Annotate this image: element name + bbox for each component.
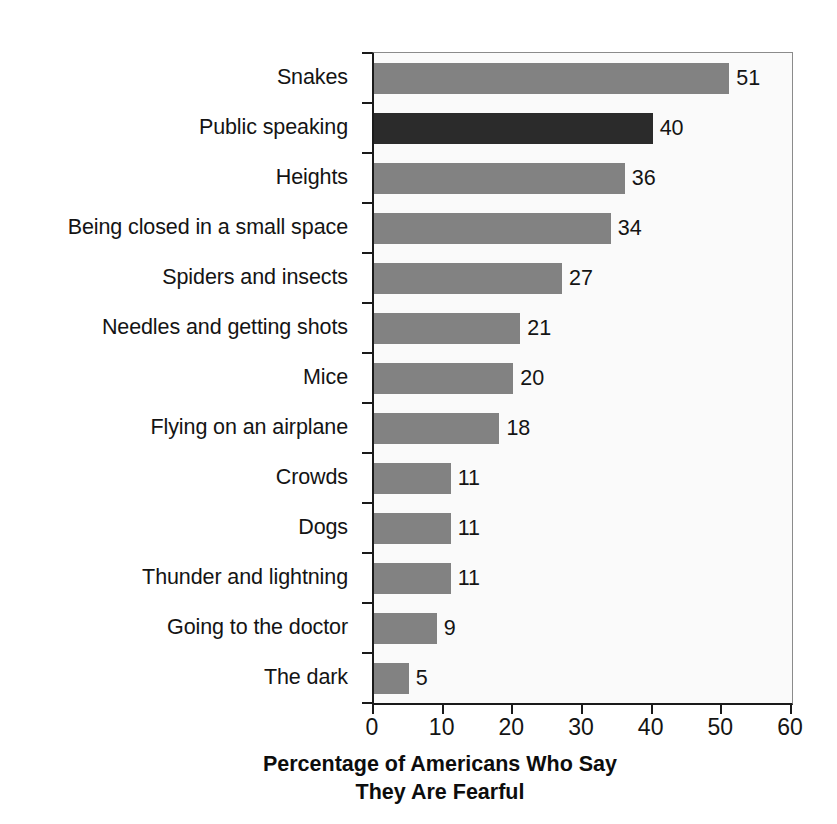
bar-value-label: 40	[660, 113, 684, 144]
bar-value-label: 34	[618, 213, 642, 244]
bar-value-label: 27	[569, 263, 593, 294]
value-axis-title-line-2: They Are Fearful	[160, 778, 720, 806]
bar[interactable]	[374, 663, 409, 694]
bar-row[interactable]: 27	[374, 253, 792, 303]
value-tick	[442, 704, 444, 714]
bar[interactable]	[374, 363, 513, 394]
category-label: Needles and getting shots	[0, 302, 348, 352]
bar-value-label: 11	[458, 463, 480, 494]
bar[interactable]	[374, 313, 520, 344]
plot-area: 514036342721201811111195	[372, 52, 793, 705]
category-label: Crowds	[0, 452, 348, 502]
category-label: Heights	[0, 152, 348, 202]
bar-row[interactable]: 51	[374, 53, 792, 103]
value-tick-label: 60	[760, 714, 820, 741]
bar[interactable]	[374, 513, 451, 544]
value-tick	[511, 704, 513, 714]
bar-row[interactable]: 21	[374, 303, 792, 353]
bar[interactable]	[374, 213, 611, 244]
category-label: Flying on an airplane	[0, 402, 348, 452]
bar-value-label: 36	[632, 163, 656, 194]
bar[interactable]	[374, 63, 729, 94]
bar-row[interactable]: 18	[374, 403, 792, 453]
bar-row[interactable]: 34	[374, 203, 792, 253]
bar-value-label: 18	[506, 413, 530, 444]
bar-chart: SnakesPublic speakingHeightsBeing closed…	[0, 0, 837, 824]
bar-row[interactable]: 40	[374, 103, 792, 153]
category-label: Going to the doctor	[0, 602, 348, 652]
category-label: Snakes	[0, 52, 348, 102]
bar[interactable]	[374, 263, 562, 294]
value-tick-label: 50	[690, 714, 750, 741]
category-label: Being closed in a small space	[0, 202, 348, 252]
bar-value-label: 5	[416, 663, 428, 694]
bar-value-label: 20	[520, 363, 544, 394]
bar[interactable]	[374, 463, 451, 494]
bar-value-label: 21	[527, 313, 551, 344]
bar-row[interactable]: 11	[374, 553, 792, 603]
bar-row[interactable]: 5	[374, 653, 792, 703]
value-tick-label: 40	[621, 714, 681, 741]
bar-value-label: 11	[458, 513, 480, 544]
bar-value-label: 9	[444, 613, 456, 644]
bar-row[interactable]: 20	[374, 353, 792, 403]
category-label: Thunder and lightning	[0, 552, 348, 602]
bar-value-label: 51	[736, 63, 760, 94]
value-tick-label: 0	[342, 714, 402, 741]
bar-row[interactable]: 9	[374, 603, 792, 653]
value-axis-tick-labels: 0102030405060	[372, 714, 792, 748]
bar-series: 514036342721201811111195	[374, 53, 792, 703]
value-tick	[372, 704, 374, 714]
value-tick	[720, 704, 722, 714]
bar-row[interactable]: 36	[374, 153, 792, 203]
bar-highlighted[interactable]	[374, 113, 653, 144]
value-tick	[581, 704, 583, 714]
bar[interactable]	[374, 163, 625, 194]
value-tick-label: 10	[412, 714, 472, 741]
bar[interactable]	[374, 413, 499, 444]
bar-row[interactable]: 11	[374, 453, 792, 503]
value-tick	[651, 704, 653, 714]
category-axis-labels: SnakesPublic speakingHeightsBeing closed…	[0, 52, 360, 702]
category-label: The dark	[0, 652, 348, 702]
category-label: Spiders and insects	[0, 252, 348, 302]
value-axis-title-line-1: Percentage of Americans Who Say	[160, 750, 720, 778]
category-label: Public speaking	[0, 102, 348, 152]
bar-row[interactable]: 11	[374, 503, 792, 553]
value-tick-label: 30	[551, 714, 611, 741]
value-tick-label: 20	[481, 714, 541, 741]
bar[interactable]	[374, 563, 451, 594]
category-label: Mice	[0, 352, 348, 402]
value-axis-title: Percentage of Americans Who Say They Are…	[160, 750, 720, 806]
bar[interactable]	[374, 613, 437, 644]
value-tick	[790, 704, 792, 714]
bar-value-label: 11	[458, 563, 480, 594]
category-label: Dogs	[0, 502, 348, 552]
